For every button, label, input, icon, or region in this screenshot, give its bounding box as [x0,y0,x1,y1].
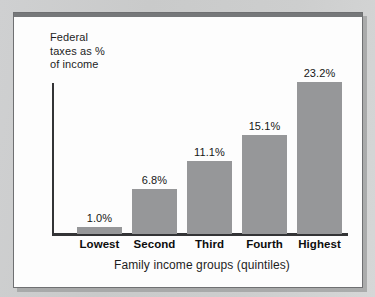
bar[interactable] [242,135,287,234]
x-axis-tick-label: Fourth [237,238,292,250]
bar-value-label: 23.2% [292,67,347,79]
x-axis-tick-labels: LowestSecondThirdFourthHighest [52,238,348,254]
x-axis-tick-label: Lowest [72,238,127,250]
bar[interactable] [187,161,232,234]
bar[interactable] [77,227,122,234]
bar-slot: 23.2% [292,13,347,234]
bar-slot: 15.1% [237,13,292,234]
bar-value-label: 6.8% [127,174,182,186]
chart-panel: Federal taxes as % of income 1.0%6.8%11.… [13,12,363,288]
bar-value-label: 11.1% [182,146,237,158]
x-axis-tick-label: Highest [292,238,347,250]
bar[interactable] [297,82,342,234]
bar-slot: 11.1% [182,13,237,234]
bar-value-label: 1.0% [72,212,127,224]
bar-slot: 1.0% [72,13,127,234]
x-axis-tick-label: Third [182,238,237,250]
bar[interactable] [132,189,177,234]
bar-slot: 6.8% [127,13,182,234]
x-axis-tick-label: Second [127,238,182,250]
x-axis-title: Family income groups (quintiles) [52,258,352,272]
bar-value-label: 15.1% [237,120,292,132]
bars-group: 1.0%6.8%11.1%15.1%23.2% [52,13,348,234]
bar-chart: Federal taxes as % of income 1.0%6.8%11.… [14,13,362,287]
